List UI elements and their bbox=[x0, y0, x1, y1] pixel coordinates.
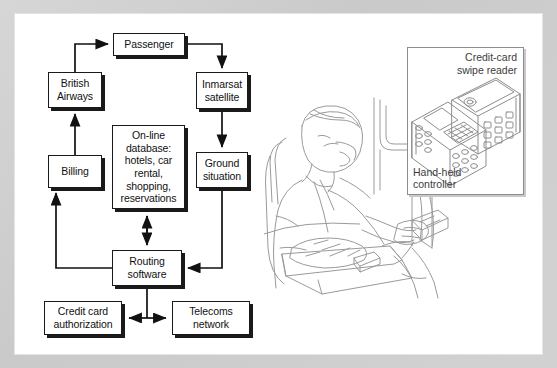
device-inset-panel: Credit-card swipe reader Hand-held contr… bbox=[407, 47, 524, 195]
edge-british-airways-to-passenger bbox=[75, 44, 108, 72]
edge-ground-situation-to-routing bbox=[188, 190, 222, 268]
inset-callout-lines bbox=[262, 190, 442, 250]
label-hand-held-controller: Hand-held controller bbox=[413, 166, 461, 191]
node-inmarsat-satellite[interactable]: Inmarsat satellite bbox=[196, 72, 248, 109]
node-online-database[interactable]: On-line database: hotels, car rental, sh… bbox=[112, 125, 185, 209]
node-passenger[interactable]: Passenger bbox=[113, 33, 185, 56]
label-credit-card-swipe-reader: Credit-card swipe reader bbox=[457, 51, 517, 76]
edge-passenger-to-inmarsat bbox=[185, 44, 222, 68]
node-british-airways[interactable]: British Airways bbox=[48, 72, 102, 108]
figure-root: Passenger British Airways Inmarsat satel… bbox=[0, 0, 557, 368]
node-telecoms-network[interactable]: Telecoms network bbox=[172, 301, 250, 335]
node-ground-situation[interactable]: Ground situation bbox=[196, 152, 248, 188]
edge-routing-to-billing bbox=[56, 193, 112, 268]
node-routing-software[interactable]: Routing software bbox=[112, 250, 182, 286]
node-billing[interactable]: Billing bbox=[48, 155, 102, 188]
node-credit-card-authorization[interactable]: Credit card authorization bbox=[44, 301, 122, 335]
